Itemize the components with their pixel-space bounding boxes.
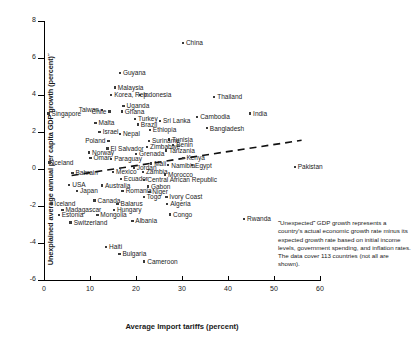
data-point[interactable] bbox=[94, 122, 96, 124]
data-point[interactable] bbox=[58, 214, 60, 216]
x-tick-label: 10 bbox=[78, 285, 102, 292]
x-tick-mark bbox=[320, 276, 321, 281]
data-point[interactable] bbox=[48, 161, 50, 163]
y-tick-label: 8 bbox=[0, 21, 44, 22]
data-point[interactable] bbox=[121, 190, 123, 192]
data-point-label: Cameroon bbox=[147, 258, 177, 265]
data-point-label: Estonia bbox=[62, 211, 84, 218]
y-axis-line bbox=[44, 21, 45, 280]
data-point-label: Japan bbox=[80, 187, 98, 194]
data-point-label: Bahrain bbox=[76, 169, 98, 176]
data-point[interactable] bbox=[50, 203, 52, 205]
data-point-label: Togo bbox=[147, 193, 161, 200]
data-point[interactable] bbox=[294, 166, 296, 168]
data-point[interactable] bbox=[107, 140, 109, 142]
data-point[interactable] bbox=[165, 149, 167, 151]
y-tick-label: 0 bbox=[0, 169, 44, 170]
data-point[interactable] bbox=[196, 116, 198, 118]
data-point[interactable] bbox=[213, 96, 215, 98]
data-point[interactable] bbox=[101, 184, 103, 186]
data-point[interactable] bbox=[108, 110, 110, 112]
data-point[interactable] bbox=[110, 158, 112, 160]
data-point[interactable] bbox=[114, 86, 116, 88]
data-point-label: Ghana bbox=[125, 108, 145, 115]
data-point[interactable] bbox=[93, 199, 95, 201]
data-point[interactable] bbox=[69, 221, 71, 223]
data-point[interactable] bbox=[68, 184, 70, 186]
data-point[interactable] bbox=[165, 196, 167, 198]
data-point-label: Kenya bbox=[186, 154, 204, 161]
y-tick-label: 6 bbox=[0, 58, 44, 59]
data-point-label: Pakistan bbox=[298, 163, 323, 170]
x-axis-title: Average Import tariffs (percent) bbox=[44, 322, 320, 331]
data-point[interactable] bbox=[169, 213, 171, 215]
data-point[interactable] bbox=[182, 157, 184, 159]
data-point-label: Israel bbox=[103, 128, 119, 135]
data-point[interactable] bbox=[71, 172, 73, 174]
data-point-label: Sri Lanka bbox=[163, 117, 190, 124]
data-point[interactable] bbox=[131, 220, 133, 222]
x-tick-label: 30 bbox=[170, 285, 194, 292]
data-point-label: Guyana bbox=[123, 69, 146, 76]
data-point[interactable] bbox=[143, 179, 145, 181]
data-point-label: Iceland bbox=[53, 159, 74, 166]
data-point-label: Malta bbox=[99, 119, 115, 126]
data-point[interactable] bbox=[105, 246, 107, 248]
data-point[interactable] bbox=[142, 171, 144, 173]
data-point-label: China bbox=[186, 39, 203, 46]
x-tick-mark bbox=[228, 276, 229, 281]
data-point[interactable] bbox=[206, 127, 208, 129]
y-tick-label: -2 bbox=[0, 206, 44, 207]
data-point-label: Bulgaria bbox=[122, 250, 146, 257]
x-tick-label: 50 bbox=[262, 285, 286, 292]
data-point-label: Switzerland bbox=[74, 219, 108, 226]
data-point[interactable] bbox=[159, 120, 161, 122]
data-point[interactable] bbox=[139, 94, 141, 96]
data-point-label: Tanzania bbox=[169, 147, 195, 154]
data-point-label: Malaysia bbox=[118, 84, 144, 91]
data-point[interactable] bbox=[182, 42, 184, 44]
x-tick-mark bbox=[136, 276, 137, 281]
data-point-label: Grenada bbox=[139, 150, 164, 157]
data-point[interactable] bbox=[134, 118, 136, 120]
x-tick-label: 40 bbox=[216, 285, 240, 292]
data-point[interactable] bbox=[47, 112, 49, 114]
data-point[interactable] bbox=[167, 164, 169, 166]
x-tick-label: 0 bbox=[32, 285, 56, 292]
data-point-label: Bangladesh bbox=[210, 125, 244, 132]
data-point[interactable] bbox=[119, 133, 121, 135]
data-point[interactable] bbox=[121, 110, 123, 112]
chart-annotation: ˝Unexpected˝ GDP growth represents a cou… bbox=[278, 219, 412, 269]
data-point[interactable] bbox=[191, 164, 193, 166]
data-point-label: Oman bbox=[93, 154, 111, 161]
data-point[interactable] bbox=[110, 94, 112, 96]
data-point-label: Algeria bbox=[170, 200, 190, 207]
data-point[interactable] bbox=[98, 131, 100, 133]
data-point[interactable] bbox=[166, 203, 168, 205]
data-point[interactable] bbox=[249, 112, 251, 114]
data-point[interactable] bbox=[143, 260, 145, 262]
data-point[interactable] bbox=[76, 190, 78, 192]
data-point-label: Paraguay bbox=[114, 155, 142, 162]
x-tick-label: 20 bbox=[124, 285, 148, 292]
data-point[interactable] bbox=[149, 129, 151, 131]
data-point[interactable] bbox=[112, 171, 114, 173]
data-point[interactable] bbox=[143, 196, 145, 198]
x-tick-mark bbox=[182, 276, 183, 281]
data-point[interactable] bbox=[89, 157, 91, 159]
data-point-label: Ethiopia bbox=[153, 126, 177, 133]
y-tick-label: 4 bbox=[0, 95, 44, 96]
data-point[interactable] bbox=[88, 151, 90, 153]
x-tick-mark bbox=[44, 276, 45, 281]
data-point[interactable] bbox=[96, 214, 98, 216]
data-point[interactable] bbox=[243, 218, 245, 220]
data-point[interactable] bbox=[119, 72, 121, 74]
data-point-label: Nepal bbox=[123, 130, 140, 137]
data-point[interactable] bbox=[118, 253, 120, 255]
data-point-label: Congo bbox=[173, 211, 192, 218]
data-point[interactable] bbox=[137, 123, 139, 125]
data-point[interactable] bbox=[146, 146, 148, 148]
data-point-label: India bbox=[253, 110, 267, 117]
data-point[interactable] bbox=[120, 178, 122, 180]
data-point-label: Mexico bbox=[116, 168, 137, 175]
